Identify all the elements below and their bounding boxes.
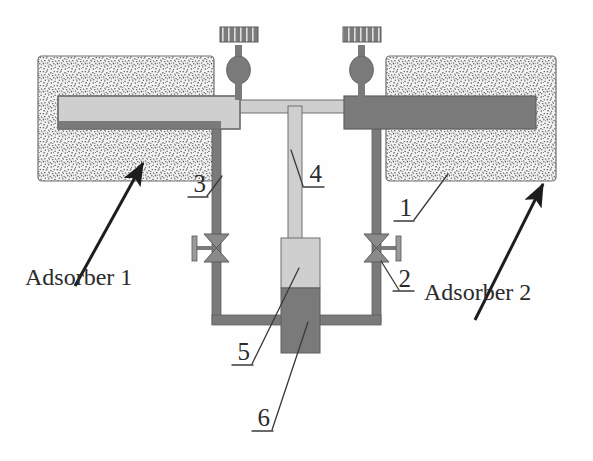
callout-label-4: 4	[310, 160, 323, 187]
valve-handle-bar-right	[396, 236, 401, 261]
valve-body-right	[350, 56, 374, 84]
callout-label-5: 5	[238, 338, 251, 365]
vessel-upper	[281, 238, 320, 288]
callout-label-3: 3	[194, 170, 207, 197]
adsorber-tube-left	[58, 96, 240, 129]
pipe-vertical-left	[212, 117, 221, 324]
valve-line-left[interactable]	[192, 234, 229, 262]
valve-top-left[interactable]	[220, 27, 258, 100]
valve-stem-lower-left	[235, 80, 242, 100]
callout-label-2: 2	[399, 265, 412, 292]
callout-label-1: 1	[400, 194, 413, 221]
valve-handwheel-right	[343, 27, 381, 42]
valve-handle-stem-left	[196, 246, 212, 250]
figure-root: 1 2 3 4 5 6 Adsorber 1 Adsorber 2	[0, 0, 593, 461]
center-vessel	[281, 238, 320, 353]
valve-handle-stem-right	[381, 246, 397, 250]
pipe-vertical-right	[372, 117, 381, 324]
valve-handle-bar-left	[192, 236, 197, 261]
valve-line-right[interactable]	[364, 234, 401, 262]
leader-2	[381, 261, 399, 290]
callout-label-6: 6	[258, 404, 271, 431]
schematic-diagram: 1 2 3 4 5 6 Adsorber 1 Adsorber 2	[0, 0, 593, 461]
valve-handwheel-left	[220, 27, 258, 42]
valve-top-right[interactable]	[343, 27, 381, 100]
valve-stem-lower-right	[358, 80, 365, 100]
adsorber-tube-right	[344, 96, 536, 129]
adsorber-2-label: Adsorber 2	[424, 279, 531, 305]
valve-body-left	[227, 56, 251, 84]
adsorber-1-label: Adsorber 1	[25, 264, 132, 290]
